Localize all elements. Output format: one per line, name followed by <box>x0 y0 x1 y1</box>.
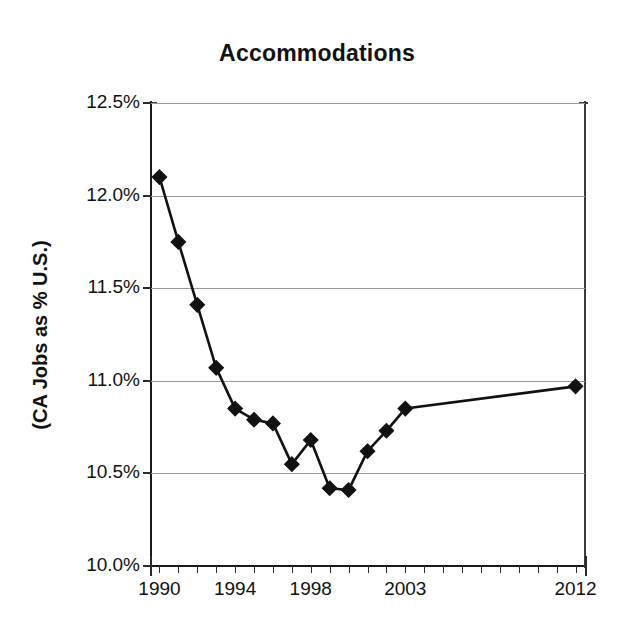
x-axis-tick <box>216 566 217 573</box>
x-axis-tick-label: 2003 <box>384 578 426 600</box>
chart-title: Accommodations <box>0 40 634 67</box>
y-axis-tick-label: 10.5% <box>50 461 140 483</box>
x-axis-tick <box>405 566 406 573</box>
y-axis-tick-label: 10.0% <box>50 554 140 576</box>
x-axis-tick <box>349 566 350 573</box>
x-axis-tick <box>386 566 387 573</box>
x-axis-tick-label: 2012 <box>554 578 596 600</box>
y-axis-line <box>150 101 152 568</box>
x-axis-tick-label: 1998 <box>290 578 332 600</box>
gridline <box>150 473 585 474</box>
x-axis-tick <box>576 566 577 573</box>
x-axis-tick <box>424 566 425 573</box>
gridline <box>150 288 585 289</box>
gridline <box>150 196 585 197</box>
x-axis-tick <box>254 566 255 573</box>
y-axis-tick <box>143 195 151 197</box>
x-axis-tick <box>462 566 463 573</box>
plot-right-border <box>584 101 586 568</box>
x-axis-tick <box>368 566 369 573</box>
x-axis-tick <box>519 566 520 573</box>
x-axis-end-cap <box>585 556 587 576</box>
gridline <box>150 381 585 382</box>
y-axis-tick-label: 11.5% <box>50 276 140 298</box>
x-axis-tick <box>292 566 293 573</box>
x-axis-tick <box>538 566 539 573</box>
x-axis-tick-label: 1990 <box>138 578 180 600</box>
x-axis-start-cap <box>150 556 152 576</box>
y-axis-tick-label: 12.0% <box>50 184 140 206</box>
x-axis-tick <box>178 566 179 573</box>
x-axis-tick <box>443 566 444 573</box>
plot-area <box>150 103 585 566</box>
x-axis-tick <box>481 566 482 573</box>
x-axis-tick <box>500 566 501 573</box>
y-axis-title: (CA Jobs as % U.S.) <box>29 240 52 429</box>
x-axis-tick <box>273 566 274 573</box>
x-axis-tick <box>235 566 236 573</box>
y-axis-tick <box>143 472 151 474</box>
x-axis-tick <box>311 566 312 573</box>
x-axis-tick <box>330 566 331 573</box>
y-axis-title-wrap: (CA Jobs as % U.S.) <box>22 103 58 566</box>
y-axis-tick-label: 12.5% <box>50 91 140 113</box>
y-axis-tick <box>143 102 151 104</box>
gridline <box>150 103 585 104</box>
x-axis-tick-label: 1994 <box>214 578 256 600</box>
x-axis-tick <box>197 566 198 573</box>
x-axis-tick <box>557 566 558 573</box>
y-axis-tick-label: 11.0% <box>50 369 140 391</box>
chart-container: Accommodations (CA Jobs as % U.S.) 10.0%… <box>0 0 634 637</box>
x-axis-tick <box>159 566 160 573</box>
y-axis-tick <box>143 287 151 289</box>
y-axis-tick <box>143 380 151 382</box>
